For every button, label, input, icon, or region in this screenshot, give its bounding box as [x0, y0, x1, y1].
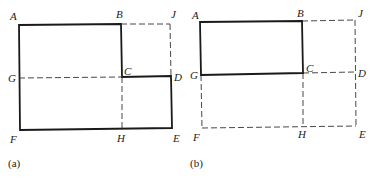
label-a-E: E	[172, 132, 180, 144]
figure-b-dashed-bj	[302, 20, 355, 21]
label-a-A: A	[9, 10, 17, 22]
label-a-C: C	[124, 65, 132, 77]
label-b-B: B	[297, 7, 304, 19]
label-a-F: F	[9, 133, 17, 145]
label-b-G: G	[190, 69, 198, 81]
diagram-canvas: A B J G C D F H E (a) A B J G C D F H E …	[0, 0, 378, 180]
caption-a: (a)	[8, 157, 21, 170]
label-a-B: B	[116, 8, 123, 20]
figure-b-dashed-je	[355, 20, 356, 126]
label-b-E: E	[358, 128, 366, 140]
label-b-J: J	[358, 7, 364, 19]
label-b-F: F	[192, 131, 200, 143]
figure-a-dashed-gc	[19, 77, 122, 78]
label-a-J: J	[171, 8, 177, 20]
figure-a-dashed-jd	[170, 24, 171, 76]
label-a-H: H	[116, 132, 126, 144]
label-b-H: H	[297, 128, 307, 140]
figure-a: A B J G C D F H E (a)	[8, 8, 182, 170]
caption-b: (b)	[190, 157, 203, 170]
label-b-A: A	[191, 9, 199, 21]
label-b-D: D	[357, 67, 366, 79]
figure-b-dashed-fe	[202, 126, 356, 128]
label-a-D: D	[173, 71, 182, 83]
figure-b: A B J G C D F H E (b)	[190, 7, 366, 170]
figure-b-dashed-gf	[201, 75, 202, 128]
label-a-G: G	[8, 72, 16, 84]
label-b-C: C	[306, 62, 314, 74]
figure-b-shaded-region	[200, 21, 303, 75]
